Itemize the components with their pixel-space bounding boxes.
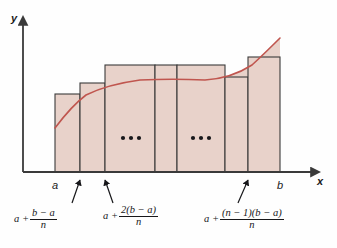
- annotation-partition-n-1: a +(n − 1)(b − a)n: [204, 208, 285, 230]
- annotation-3-numerator: (n − 1)(b − a): [220, 208, 284, 220]
- annotation-2-denominator: n: [119, 217, 158, 228]
- x-axis-label: x: [316, 175, 324, 187]
- annotation-2-fraction: 2(b − a)n: [119, 205, 158, 227]
- ellipsis-right: [191, 136, 211, 140]
- annotation-3-denominator: n: [220, 220, 284, 231]
- annotation-3-fraction: (n − 1)(b − a)n: [220, 208, 284, 230]
- tick-label-b: b: [277, 179, 283, 191]
- annotation-1-lead: a +: [14, 214, 29, 225]
- riemann-rect: [248, 57, 280, 172]
- pointer-arrow-2: [105, 180, 113, 203]
- annotation-3-lead: a +: [204, 214, 219, 225]
- annotation-2-lead: a +: [103, 211, 118, 222]
- pointer-arrow-1: [72, 180, 80, 203]
- annotation-1-numerator: b − a: [30, 208, 57, 220]
- tick-label-a: a: [52, 179, 58, 191]
- pointer-arrow-3: [238, 180, 248, 203]
- riemann-rect: [177, 65, 225, 172]
- annotation-partition-1: a +b − an: [14, 208, 58, 230]
- annotation-1-fraction: b − an: [30, 208, 57, 230]
- riemann-rect: [155, 65, 177, 172]
- ellipsis-left: [121, 136, 141, 140]
- riemann-rect: [225, 77, 248, 172]
- annotation-partition-2: a +2(b − a)n: [103, 205, 159, 227]
- annotation-2-numerator: 2(b − a): [119, 205, 158, 217]
- riemann-rect: [55, 94, 80, 172]
- y-axis-label: y: [10, 12, 18, 24]
- pointer-arrows-group: [72, 180, 248, 203]
- annotation-1-denominator: n: [30, 220, 57, 231]
